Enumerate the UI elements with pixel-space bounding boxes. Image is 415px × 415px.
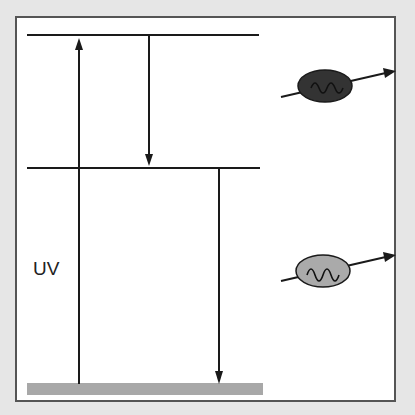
relaxation-arrowhead-icon — [145, 154, 153, 166]
energy-diagram — [0, 0, 415, 415]
ground-state-bar — [27, 383, 263, 395]
emission-arrowhead-icon — [215, 371, 223, 384]
light-photon-particle — [281, 252, 396, 287]
uv-label: UV — [33, 258, 59, 280]
dark-photon-particle — [281, 68, 396, 102]
uv-arrowhead-icon — [75, 38, 83, 50]
